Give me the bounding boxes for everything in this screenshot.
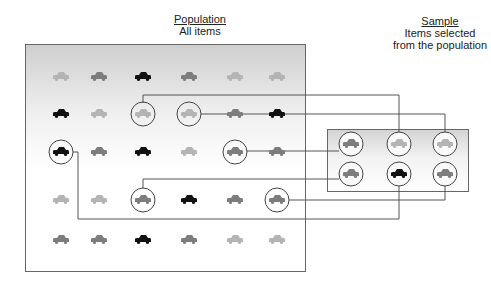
car-icon bbox=[181, 109, 197, 118]
car-icon bbox=[135, 195, 151, 204]
car-icon bbox=[269, 72, 285, 81]
diagram-canvas bbox=[0, 0, 491, 289]
car-icon bbox=[227, 235, 243, 244]
car-icon bbox=[269, 109, 285, 118]
car-icon bbox=[269, 235, 285, 244]
car-icon bbox=[135, 72, 151, 81]
car-icon bbox=[53, 72, 69, 81]
car-icon bbox=[53, 235, 69, 244]
car-icon bbox=[91, 195, 107, 204]
car-icon bbox=[181, 147, 197, 156]
car-icon bbox=[227, 72, 243, 81]
car-icon bbox=[91, 72, 107, 81]
connector-line bbox=[201, 114, 445, 132]
car-icon bbox=[181, 195, 197, 204]
car-icon bbox=[269, 195, 285, 204]
connector-line bbox=[143, 179, 339, 188]
car-icon bbox=[227, 195, 243, 204]
car-icon bbox=[91, 147, 107, 156]
car-icon bbox=[53, 109, 69, 118]
car-icon bbox=[135, 147, 151, 156]
car-icon bbox=[135, 235, 151, 244]
car-icon bbox=[53, 147, 69, 156]
car-icon bbox=[91, 109, 107, 118]
car-icon bbox=[227, 147, 243, 156]
car-icon bbox=[269, 147, 285, 156]
car-icon bbox=[181, 235, 197, 244]
connector-line bbox=[289, 186, 445, 200]
car-icon bbox=[135, 109, 151, 118]
car-icon bbox=[181, 72, 197, 81]
car-icon bbox=[91, 235, 107, 244]
car-icon bbox=[227, 109, 243, 118]
car-icon bbox=[53, 195, 69, 204]
